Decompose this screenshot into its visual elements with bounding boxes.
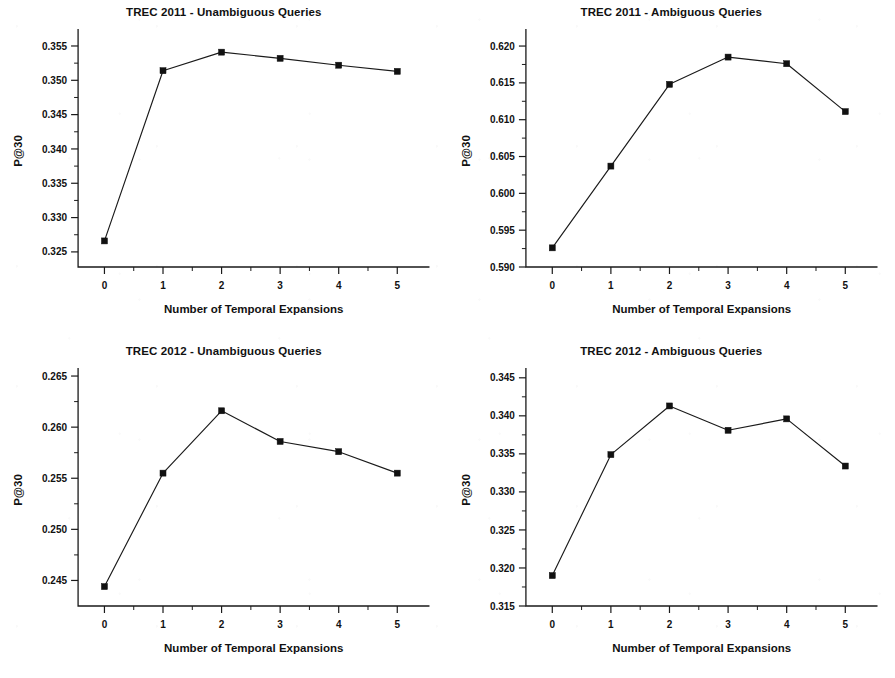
axis-spines <box>78 29 429 267</box>
x-axis-title: Number of Temporal Expansions <box>164 303 343 315</box>
y-tick-label: 0.615 <box>489 77 514 88</box>
y-tick-label: 0.325 <box>42 247 67 258</box>
data-point-marker[interactable] <box>549 245 555 251</box>
x-tick-label: 3 <box>277 619 283 630</box>
data-point-marker[interactable] <box>725 427 731 433</box>
axis-spines <box>525 368 877 606</box>
y-tick-label: 0.325 <box>489 525 514 536</box>
x-tick-label: 0 <box>102 280 108 291</box>
data-point-marker[interactable] <box>160 470 166 476</box>
y-tick-label: 0.345 <box>42 109 67 120</box>
x-tick-label: 2 <box>219 280 225 291</box>
chart-plot-area: 0.2450.2500.2550.2600.265012345Number of… <box>0 339 448 678</box>
y-tick-label: 0.265 <box>42 371 67 382</box>
x-tick-label: 0 <box>549 280 555 291</box>
x-tick-label: 4 <box>783 280 789 291</box>
x-tick-label: 5 <box>842 280 848 291</box>
y-tick-label: 0.330 <box>489 486 514 497</box>
data-point-marker[interactable] <box>394 68 400 74</box>
x-tick-label: 1 <box>160 619 166 630</box>
chart-plot-area: 0.5900.5950.6000.6050.6100.6150.62001234… <box>448 0 895 339</box>
chart-plot-area: 0.3250.3300.3350.3400.3450.3500.35501234… <box>0 0 448 339</box>
data-point-marker[interactable] <box>277 55 283 61</box>
chart-plot-area: 0.3150.3200.3250.3300.3350.3400.34501234… <box>448 339 895 678</box>
chart-panel-trec2011-unambiguous: TREC 2011 - Unambiguous Queries 0.3250.3… <box>0 0 448 339</box>
y-tick-label: 0.610 <box>489 114 514 125</box>
chart-panel-trec2012-ambiguous: TREC 2012 - Ambiguous Queries 0.3150.320… <box>448 339 895 678</box>
figure-grid: TREC 2011 - Unambiguous Queries 0.3250.3… <box>0 0 895 678</box>
x-tick-label: 4 <box>336 619 342 630</box>
data-point-marker[interactable] <box>783 61 789 67</box>
y-axis-title: P@30 <box>459 474 471 506</box>
y-tick-label: 0.590 <box>489 262 514 273</box>
y-axis-title: P@30 <box>12 474 24 506</box>
y-tick-label: 0.320 <box>489 563 514 574</box>
y-tick-label: 0.335 <box>42 178 67 189</box>
x-tick-label: 1 <box>160 280 166 291</box>
x-tick-label: 0 <box>102 619 108 630</box>
y-tick-label: 0.600 <box>489 188 514 199</box>
y-tick-label: 0.255 <box>42 473 67 484</box>
x-axis-title: Number of Temporal Expansions <box>164 642 343 654</box>
x-tick-label: 1 <box>608 619 614 630</box>
y-tick-label: 0.330 <box>42 212 67 223</box>
y-tick-label: 0.340 <box>42 144 67 155</box>
data-point-marker[interactable] <box>666 81 672 87</box>
data-point-marker[interactable] <box>607 452 613 458</box>
axis-spines <box>525 29 877 267</box>
y-tick-label: 0.245 <box>42 575 67 586</box>
x-tick-label: 3 <box>277 280 283 291</box>
x-axis-title: Number of Temporal Expansions <box>612 642 791 654</box>
y-tick-label: 0.350 <box>42 75 67 86</box>
x-tick-label: 4 <box>336 280 342 291</box>
series-line <box>552 57 845 248</box>
data-point-marker[interactable] <box>725 54 731 60</box>
y-tick-label: 0.620 <box>489 41 514 52</box>
data-point-marker[interactable] <box>101 584 107 590</box>
x-tick-label: 4 <box>783 619 789 630</box>
x-tick-label: 2 <box>219 619 225 630</box>
series-line <box>104 411 397 587</box>
x-tick-label: 5 <box>394 280 400 291</box>
axis-spines <box>78 368 429 606</box>
data-point-marker[interactable] <box>336 62 342 68</box>
data-point-marker[interactable] <box>783 416 789 422</box>
data-point-marker[interactable] <box>666 403 672 409</box>
y-axis-title: P@30 <box>12 135 24 167</box>
y-tick-label: 0.355 <box>42 41 67 52</box>
x-tick-label: 5 <box>394 619 400 630</box>
data-point-marker[interactable] <box>607 163 613 169</box>
data-point-marker[interactable] <box>549 573 555 579</box>
x-tick-label: 2 <box>666 619 672 630</box>
y-tick-label: 0.315 <box>489 601 514 612</box>
x-tick-label: 5 <box>842 619 848 630</box>
series-line <box>104 52 397 241</box>
data-point-marker[interactable] <box>336 449 342 455</box>
y-tick-label: 0.595 <box>489 225 514 236</box>
x-axis-title: Number of Temporal Expansions <box>612 303 791 315</box>
data-point-marker[interactable] <box>842 109 848 115</box>
y-tick-label: 0.605 <box>489 151 514 162</box>
y-tick-label: 0.250 <box>42 524 67 535</box>
chart-panel-trec2011-ambiguous: TREC 2011 - Ambiguous Queries 0.5900.595… <box>448 0 895 339</box>
chart-panel-trec2012-unambiguous: TREC 2012 - Unambiguous Queries 0.2450.2… <box>0 339 448 678</box>
data-point-marker[interactable] <box>101 238 107 244</box>
x-tick-label: 2 <box>666 280 672 291</box>
x-tick-label: 3 <box>725 280 731 291</box>
data-point-marker[interactable] <box>219 49 225 55</box>
x-tick-label: 1 <box>608 280 614 291</box>
y-tick-label: 0.260 <box>42 422 67 433</box>
y-axis-title: P@30 <box>459 135 471 167</box>
data-point-marker[interactable] <box>394 470 400 476</box>
data-point-marker[interactable] <box>219 408 225 414</box>
x-tick-label: 3 <box>725 619 731 630</box>
y-tick-label: 0.345 <box>489 372 514 383</box>
y-tick-label: 0.335 <box>489 448 514 459</box>
series-line <box>552 406 845 576</box>
data-point-marker[interactable] <box>277 438 283 444</box>
data-point-marker[interactable] <box>842 463 848 469</box>
data-point-marker[interactable] <box>160 68 166 74</box>
x-tick-label: 0 <box>549 619 555 630</box>
y-tick-label: 0.340 <box>489 410 514 421</box>
